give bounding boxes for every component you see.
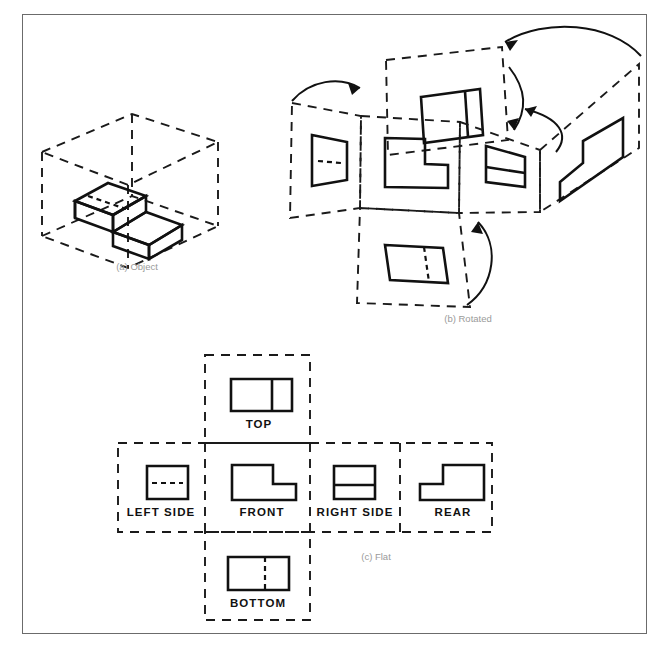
caption-a: (a) Object	[116, 261, 158, 272]
flat-view-rear: REAR	[420, 465, 484, 518]
rotated-panel-front	[360, 116, 460, 213]
caption-c: (c) Flat	[361, 551, 391, 562]
view-label-front: FRONT	[239, 506, 284, 518]
view-label-top: TOP	[246, 418, 273, 430]
panel-a-object: (a) Object	[42, 114, 218, 272]
flat-view-bottom: BOTTOM	[228, 557, 289, 609]
view-label-right-side: RIGHT SIDE	[317, 506, 394, 518]
rotation-arrows	[292, 27, 641, 305]
rotated-panel-bottom	[357, 208, 470, 307]
flat-view-front: FRONT	[232, 465, 296, 518]
figure-canvas: (a) Object	[0, 0, 669, 650]
flat-view-top: TOP	[231, 379, 292, 430]
view-label-bottom: BOTTOM	[230, 597, 286, 609]
view-label-rear: REAR	[435, 506, 472, 518]
flat-view-right-side: RIGHT SIDE	[317, 466, 394, 518]
rotated-panel-rear	[540, 64, 639, 212]
flat-view-left-side: LEFT SIDE	[127, 466, 196, 518]
rotated-panel-left-side	[290, 103, 361, 218]
flat-layout-grid	[118, 355, 492, 620]
panel-b-rotated: (b) Rotated	[290, 27, 641, 324]
view-label-left-side: LEFT SIDE	[127, 506, 196, 518]
orthographic-projection-figure: (a) Object	[0, 0, 669, 650]
caption-b: (b) Rotated	[444, 313, 492, 324]
panel-c-flat: TOP LEFT SIDE FRONT RIGHT SIDE	[118, 355, 492, 620]
